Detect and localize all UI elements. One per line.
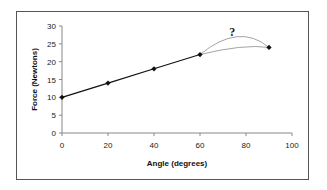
- question-mark-annotation: ?: [229, 25, 235, 39]
- data-point-marker: [151, 66, 156, 71]
- y-tick-label: 15: [47, 76, 56, 85]
- x-tick-label: 100: [285, 141, 299, 150]
- y-axis-title: Force (Newtons): [30, 48, 39, 111]
- data-point-marker: [59, 95, 64, 100]
- x-tick-label: 20: [104, 141, 113, 150]
- x-tick-label: 60: [196, 141, 205, 150]
- data-point-marker: [105, 80, 110, 85]
- data-line: [62, 55, 200, 98]
- x-tick-label: 80: [242, 141, 251, 150]
- x-axis-title: Angle (degrees): [147, 159, 208, 168]
- line-chart: 051015202530020406080100Angle (degrees)F…: [0, 0, 327, 190]
- lower-guess-curve: [200, 47, 269, 55]
- x-tick-label: 0: [60, 141, 65, 150]
- y-tick-label: 10: [47, 93, 56, 102]
- y-tick-label: 20: [47, 58, 56, 67]
- y-tick-label: 5: [52, 111, 57, 120]
- x-tick-label: 40: [150, 141, 159, 150]
- y-tick-label: 0: [52, 129, 57, 138]
- y-tick-label: 30: [47, 22, 56, 31]
- y-tick-label: 25: [47, 40, 56, 49]
